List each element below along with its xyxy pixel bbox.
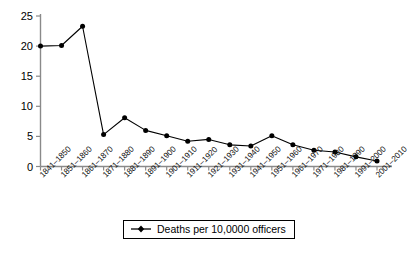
- data-point: [80, 24, 85, 29]
- data-point: [101, 132, 106, 137]
- chart-legend: Deaths per 10,0000 officers: [123, 220, 295, 239]
- legend-label-deaths: Deaths per 10,0000 officers: [157, 223, 286, 235]
- y-axis-tick-label: 20: [21, 40, 33, 52]
- data-point: [122, 115, 127, 120]
- y-axis-tick-label: 10: [21, 100, 33, 112]
- data-point: [143, 128, 148, 133]
- y-axis-tick-label: 15: [21, 70, 33, 82]
- data-point: [59, 43, 64, 48]
- y-axis-tick-label: 5: [27, 130, 33, 142]
- legend-marker-icon: [130, 224, 152, 234]
- y-axis-tick-labels: 0510152025: [21, 10, 33, 173]
- y-axis-tick-label: 25: [21, 10, 33, 22]
- data-point: [269, 133, 274, 138]
- data-point: [206, 137, 211, 142]
- data-point: [38, 44, 43, 49]
- y-axis-tick-label: 0: [27, 161, 33, 173]
- series-markers: [38, 24, 380, 164]
- data-point: [164, 133, 169, 138]
- data-point: [185, 139, 190, 144]
